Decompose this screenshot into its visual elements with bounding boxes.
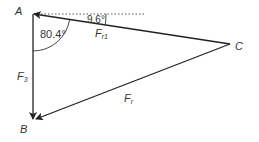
vertex-label-a: A xyxy=(14,5,22,17)
angle-label-80: 80.4° xyxy=(40,28,66,40)
vector-label-fr: Fr xyxy=(124,92,134,105)
vertex-label-b: B xyxy=(20,123,27,135)
angle-arc-9 xyxy=(105,14,106,25)
vector-fr xyxy=(36,44,230,119)
vertex-label-c: C xyxy=(235,40,243,52)
vector-label-fr1: Fr1 xyxy=(95,27,108,40)
vector-label-f3: F3 xyxy=(17,70,28,83)
force-triangle-diagram: A B C 80.4° 9.6° F3 Fr1 Fr xyxy=(0,0,259,142)
angle-label-9: 9.6° xyxy=(87,14,105,25)
